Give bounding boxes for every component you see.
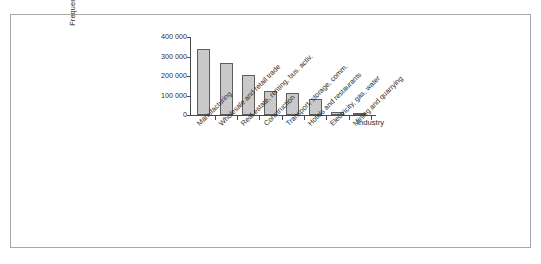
x-axis-category-label: Real estate, renting, bus. activ. xyxy=(239,121,245,127)
x-axis-category-label: Electricity, gas, water xyxy=(328,121,334,127)
x-axis-category-label: Hotels and restaurants xyxy=(306,121,312,127)
x-axis-category-labels: ManufacturingWholesale and retail tradeR… xyxy=(0,0,541,264)
x-axis-category-label: Wholesale and retail trade xyxy=(217,121,223,127)
bar-chart-figure: Frequency (x100) 0100 000200 000300 0004… xyxy=(0,0,541,264)
x-axis-category-label: Mining and quarrying xyxy=(351,121,357,127)
x-axis-category-label: Manufacturing xyxy=(195,121,201,127)
x-axis-category-label: Construction xyxy=(261,121,267,127)
x-axis-category-label: Transport, storage, comm. xyxy=(284,121,290,127)
